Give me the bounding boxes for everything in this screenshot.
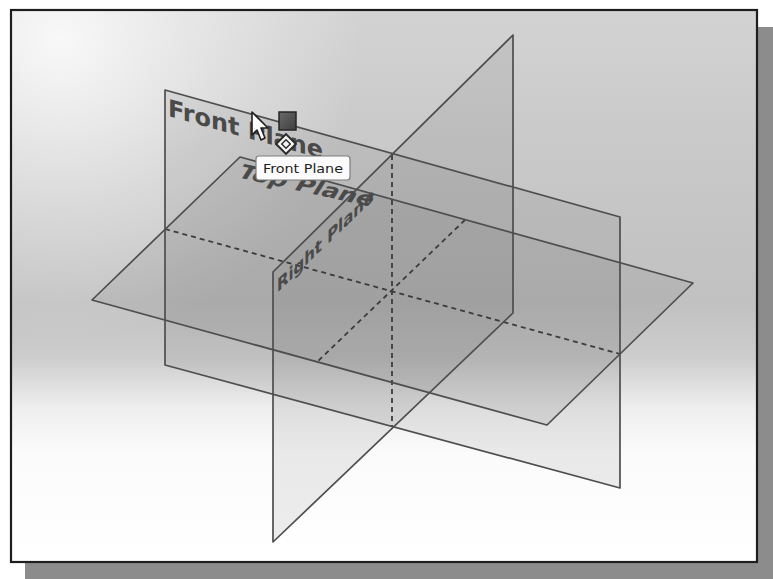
frame-shadow-right [758, 27, 773, 579]
face-selection-square-icon [279, 112, 296, 130]
viewport[interactable]: Front Plane Top Plane Right Plane Front … [11, 10, 757, 562]
tooltip-text: Front Plane [263, 161, 343, 176]
graphics-viewport-canvas[interactable]: Front Plane Top Plane Right Plane Front … [0, 0, 773, 579]
tooltip: Front Plane [256, 156, 350, 180]
frame-shadow-bottom [25, 563, 773, 579]
